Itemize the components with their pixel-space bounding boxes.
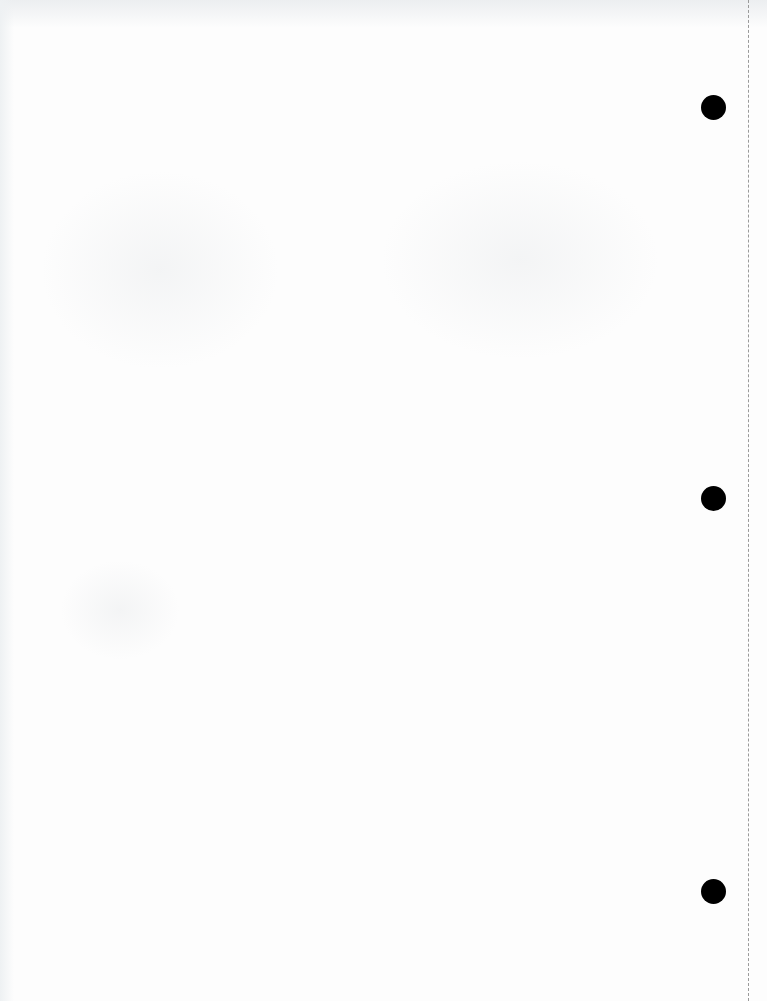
perforation-line xyxy=(748,0,749,1001)
bleed-through-smudge xyxy=(380,160,660,360)
punch-hole xyxy=(701,486,726,511)
scan-top-shadow xyxy=(0,0,767,28)
bleed-through-smudge xyxy=(60,560,180,660)
scan-left-shadow xyxy=(0,0,14,1001)
punch-hole xyxy=(701,95,726,120)
bleed-through-smudge xyxy=(40,170,280,370)
punch-hole xyxy=(701,879,726,904)
scanned-page xyxy=(0,0,767,1001)
